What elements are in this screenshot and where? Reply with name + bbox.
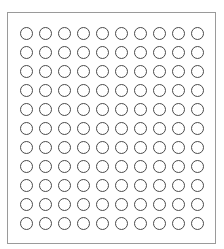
grid-cell [17, 62, 36, 81]
grid-cell [112, 100, 131, 119]
circle-outline-icon [115, 122, 128, 135]
circle-outline-icon [172, 27, 185, 40]
grid-cell [150, 43, 169, 62]
grid-cell [93, 119, 112, 138]
circle-outline-icon [96, 122, 109, 135]
grid-cell [36, 100, 55, 119]
circle-outline-icon [77, 84, 90, 97]
grid-cell [112, 157, 131, 176]
grid-cell [93, 81, 112, 100]
grid-cell [150, 157, 169, 176]
grid-cell [169, 81, 188, 100]
grid-cell [55, 24, 74, 43]
grid-cell [169, 43, 188, 62]
circle-outline-icon [153, 160, 166, 173]
grid-cell [112, 43, 131, 62]
grid-cell [74, 100, 93, 119]
grid-cell [169, 100, 188, 119]
circle-outline-icon [20, 27, 33, 40]
grid-cell [36, 157, 55, 176]
circle-outline-icon [153, 27, 166, 40]
grid-cell [74, 43, 93, 62]
grid-cell [55, 81, 74, 100]
grid-cell [150, 81, 169, 100]
circle-outline-icon [134, 103, 147, 116]
grid-cell [131, 214, 150, 233]
grid-cell [169, 195, 188, 214]
circle-outline-icon [96, 27, 109, 40]
circle-outline-icon [77, 160, 90, 173]
circle-outline-icon [115, 160, 128, 173]
circle-outline-icon [20, 198, 33, 211]
grid-cell [112, 24, 131, 43]
circle-outline-icon [39, 84, 52, 97]
grid-cell [93, 195, 112, 214]
grid-cell [93, 214, 112, 233]
circle-outline-icon [96, 198, 109, 211]
grid-cell [150, 195, 169, 214]
grid-cell [169, 24, 188, 43]
circle-outline-icon [191, 84, 204, 97]
grid-cell [188, 214, 207, 233]
grid-cell [74, 138, 93, 157]
grid-cell [55, 176, 74, 195]
grid-cell [150, 176, 169, 195]
circle-outline-icon [191, 141, 204, 154]
grid-cell [169, 119, 188, 138]
grid-cell [131, 195, 150, 214]
grid-cell [17, 119, 36, 138]
circle-outline-icon [96, 160, 109, 173]
grid-cell [55, 214, 74, 233]
grid-cell [188, 195, 207, 214]
circle-outline-icon [153, 65, 166, 78]
grid-cell [17, 138, 36, 157]
circle-outline-icon [77, 103, 90, 116]
grid-cell [36, 24, 55, 43]
grid-cell [169, 176, 188, 195]
grid-cell [112, 138, 131, 157]
grid-cell [131, 138, 150, 157]
grid-cell [188, 119, 207, 138]
circle-outline-icon [115, 141, 128, 154]
circle-outline-icon [77, 217, 90, 230]
circle-outline-icon [39, 141, 52, 154]
circle-outline-icon [77, 179, 90, 192]
circle-outline-icon [39, 198, 52, 211]
grid-cell [131, 119, 150, 138]
grid-cell [188, 157, 207, 176]
circle-outline-icon [58, 103, 71, 116]
circle-outline-icon [115, 179, 128, 192]
grid-cell [55, 43, 74, 62]
circle-outline-icon [39, 27, 52, 40]
grid-cell [150, 119, 169, 138]
circle-outline-icon [153, 46, 166, 59]
grid-cell [131, 100, 150, 119]
grid-cell [169, 157, 188, 176]
circle-outline-icon [58, 217, 71, 230]
grid-cell [74, 24, 93, 43]
circle-outline-icon [134, 141, 147, 154]
grid-cell [17, 81, 36, 100]
circle-outline-icon [77, 65, 90, 78]
circle-outline-icon [20, 103, 33, 116]
circle-outline-icon [39, 160, 52, 173]
grid-cell [112, 62, 131, 81]
circle-outline-icon [172, 46, 185, 59]
grid-cell [188, 100, 207, 119]
circle-outline-icon [191, 217, 204, 230]
circle-outline-icon [20, 141, 33, 154]
grid-cell [131, 24, 150, 43]
grid-cell [55, 100, 74, 119]
circle-outline-icon [58, 84, 71, 97]
circle-outline-icon [172, 179, 185, 192]
circle-outline-icon [115, 198, 128, 211]
grid-cell [74, 195, 93, 214]
circle-outline-icon [58, 46, 71, 59]
circle-outline-icon [172, 65, 185, 78]
circle-outline-icon [172, 198, 185, 211]
circle-outline-icon [134, 46, 147, 59]
grid-cell [17, 157, 36, 176]
grid-cell [93, 157, 112, 176]
circle-outline-icon [153, 103, 166, 116]
grid-cell [131, 43, 150, 62]
